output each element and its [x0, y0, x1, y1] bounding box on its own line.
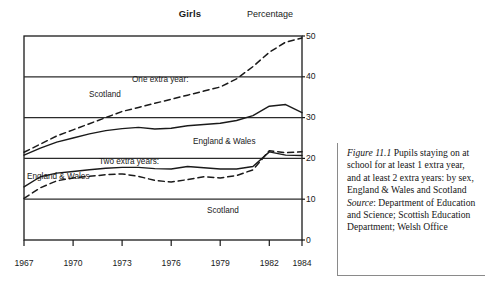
annotation-two-extra-years: Two extra years:	[99, 157, 159, 166]
y-tick-0: 0	[306, 235, 326, 245]
chart-panel: Girls Percentage	[0, 0, 330, 289]
annotation-england-wales-two-years: England & Wales	[27, 172, 90, 181]
y-tick-10: 10	[306, 194, 326, 204]
x-tick-1982: 1982	[252, 258, 286, 268]
figure-caption: Figure 11.1 Pupils staying on at school …	[337, 143, 485, 276]
annotation-scotland-one-year: Scotland	[89, 90, 121, 99]
caption-text: Figure 11.1 Pupils staying on at school …	[347, 147, 479, 234]
x-tick-1979: 1979	[203, 258, 237, 268]
y-tick-20: 20	[306, 153, 326, 163]
annotation-england-wales-one-year: England & Wales	[193, 137, 256, 146]
plot-frame	[24, 36, 302, 240]
x-tick-1976: 1976	[154, 258, 188, 268]
x-tick-1967: 1967	[7, 258, 41, 268]
figure-11-1: Girls Percentage	[0, 0, 491, 289]
annotation-one-extra-year: One extra year:	[132, 75, 188, 84]
y-tick-40: 40	[306, 71, 326, 81]
caption-source-label: Source	[347, 197, 373, 208]
x-tick-1970: 1970	[56, 258, 90, 268]
y-tick-30: 30	[306, 112, 326, 122]
annotation-scotland-two-years: Scotland	[207, 206, 239, 215]
plot-area	[0, 0, 330, 289]
caption-figure-label: Figure 11.1	[347, 147, 391, 158]
x-tick-1973: 1973	[105, 258, 139, 268]
x-axis-ticks	[24, 240, 302, 246]
x-tick-1984: 1984	[285, 258, 319, 268]
y-tick-50: 50	[306, 31, 326, 41]
